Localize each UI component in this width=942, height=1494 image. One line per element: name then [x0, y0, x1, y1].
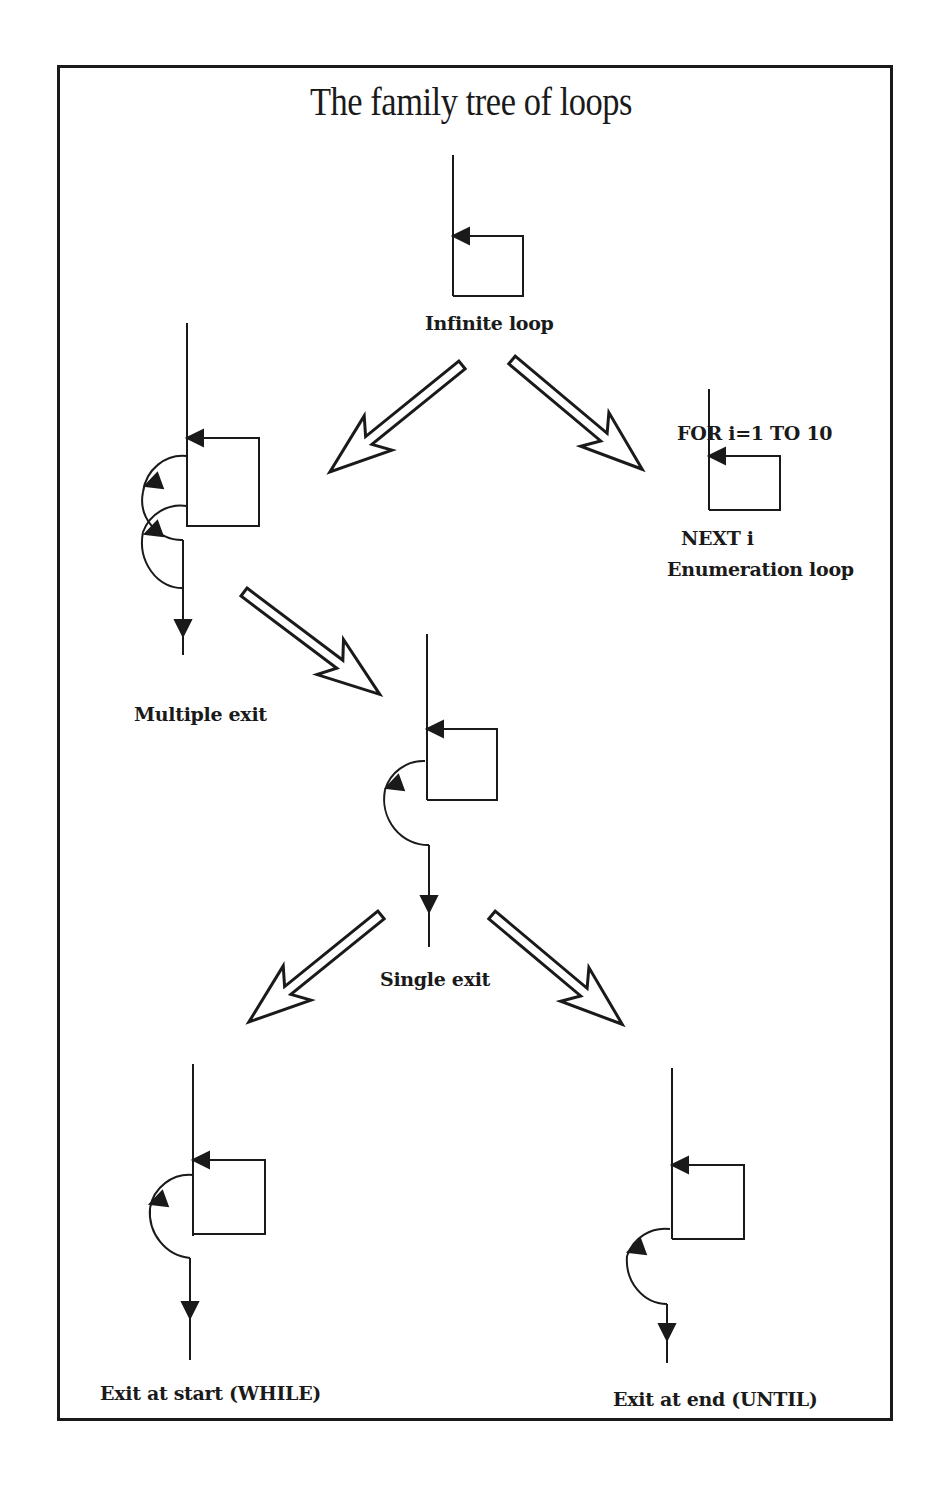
enumeration-loop-symbol — [709, 389, 780, 510]
multiple-exit-label: Multiple exit — [134, 703, 267, 725]
multiple-exit-symbol — [142, 323, 259, 655]
hollow-arrow-icon — [316, 348, 476, 489]
while-loop-symbol — [147, 1064, 265, 1360]
enumeration-code-end: NEXT i — [681, 527, 754, 549]
hollow-arrow-icon — [498, 343, 657, 486]
enumeration-loop-label: Enumeration loop — [667, 558, 854, 580]
infinite-loop-label: Infinite loop — [425, 312, 554, 334]
enumeration-code-start: FOR i=1 TO 10 — [677, 422, 832, 444]
loop-family-tree-diagram — [0, 0, 942, 1494]
single-exit-symbol — [383, 634, 497, 947]
while-loop-label: Exit at start (WHILE) — [100, 1382, 321, 1404]
infinite-loop-symbol — [453, 155, 523, 296]
hollow-arrow-icon — [478, 898, 637, 1041]
hollow-arrow-icon — [231, 574, 393, 711]
single-exit-label: Single exit — [380, 968, 490, 990]
until-loop-symbol — [625, 1068, 744, 1363]
until-loop-label: Exit at end (UNTIL) — [613, 1388, 818, 1410]
hollow-arrow-icon — [235, 898, 395, 1039]
